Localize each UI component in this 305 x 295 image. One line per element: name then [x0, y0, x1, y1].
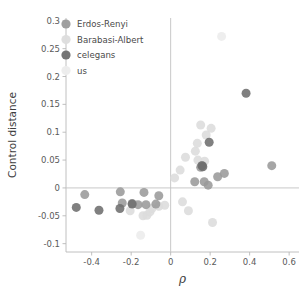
legend: Erdos-RenyiBarabasi-Albertcelegansus [61, 19, 144, 75]
scatter-chart-figure: -0.4-0.200.20.40.60.30.250.20.150.10.050… [0, 0, 305, 295]
x-axis-title: ρ [178, 272, 186, 286]
data-point[interactable] [80, 190, 89, 199]
data-point[interactable] [198, 162, 207, 171]
data-point[interactable] [207, 124, 216, 133]
data-point[interactable] [94, 206, 103, 215]
data-point[interactable] [217, 32, 226, 41]
data-point[interactable] [116, 187, 125, 196]
data-point[interactable] [170, 173, 179, 182]
data-point[interactable] [267, 161, 276, 170]
legend-label-erdos-renyi: Erdos-Renyi [77, 19, 128, 29]
data-point[interactable] [128, 200, 137, 209]
plot-canvas: -0.4-0.200.20.40.60.30.250.20.150.10.050… [0, 0, 305, 295]
data-point[interactable] [191, 147, 200, 156]
data-point[interactable] [190, 177, 199, 186]
y-tick-label: 0.1 [46, 127, 60, 137]
legend-label-us: us [77, 66, 87, 76]
data-point[interactable] [160, 201, 169, 210]
y-tick-label: -0.1 [43, 239, 60, 249]
data-point[interactable] [193, 139, 202, 148]
data-point[interactable] [220, 169, 229, 178]
data-point[interactable] [204, 181, 213, 190]
y-tick-label: 0 [55, 183, 60, 193]
x-tick-label: 0.4 [243, 257, 257, 267]
data-point[interactable] [196, 120, 205, 129]
x-tick-label: -0.2 [123, 257, 140, 267]
data-point[interactable] [205, 138, 214, 147]
data-point[interactable] [154, 191, 163, 200]
legend-marker-barabasi-albert [61, 35, 70, 44]
data-point[interactable] [72, 203, 81, 212]
y-tick-label: 0.15 [41, 99, 60, 109]
data-point[interactable] [141, 200, 150, 209]
y-tick-label: -0.05 [38, 211, 60, 221]
x-tick-label: 0 [168, 257, 173, 267]
x-tick-label: 0.2 [203, 257, 217, 267]
data-point[interactable] [178, 197, 187, 206]
data-point[interactable] [136, 231, 145, 240]
x-tick-label: 0.6 [282, 257, 296, 267]
y-tick-label: 0.2 [46, 72, 60, 82]
data-point[interactable] [181, 153, 190, 162]
legend-marker-us [61, 66, 70, 75]
y-tick-label: 0.25 [41, 44, 60, 54]
data-point[interactable] [176, 166, 185, 175]
data-point[interactable] [115, 204, 124, 213]
legend-label-celegans: celegans [77, 50, 116, 60]
data-point[interactable] [208, 218, 217, 227]
series-barabasi-albert [126, 120, 217, 227]
y-tick-label: 0.05 [41, 155, 60, 165]
x-tick-label: -0.4 [83, 257, 100, 267]
data-point[interactable] [242, 89, 251, 98]
data-point[interactable] [184, 206, 193, 215]
legend-marker-celegans [61, 50, 70, 59]
legend-marker-erdos-renyi [61, 19, 70, 28]
data-point[interactable] [151, 200, 160, 209]
y-axis-title: Control distance [6, 92, 18, 178]
data-point[interactable] [139, 188, 148, 197]
y-tick-label: 0.3 [46, 16, 60, 26]
legend-label-barabasi-albert: Barabasi-Albert [77, 35, 144, 45]
